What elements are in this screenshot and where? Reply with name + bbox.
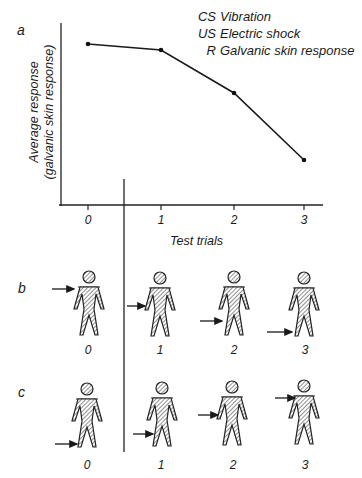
x-tick-2: 2: [224, 213, 244, 227]
row-b-label-3: 3: [295, 343, 315, 357]
row-c-figures: [55, 380, 319, 447]
chart-axes: [59, 23, 323, 210]
row-b-label-2: 2: [224, 343, 244, 357]
row-b-label-1: 1: [150, 343, 170, 357]
x-tick-3: 3: [294, 213, 314, 227]
row-c-label-3: 3: [295, 458, 315, 472]
row-b-label-0: 0: [78, 343, 98, 357]
x-tick-0: 0: [78, 213, 98, 227]
row-b-figures: [52, 271, 319, 336]
row-c-label-1: 1: [151, 458, 171, 472]
row-c-label-2: 2: [223, 458, 243, 472]
response-line: [86, 42, 307, 163]
row-c-label-0: 0: [77, 458, 97, 472]
x-axis-title: Test trials: [170, 234, 223, 248]
x-tick-1: 1: [151, 213, 171, 227]
